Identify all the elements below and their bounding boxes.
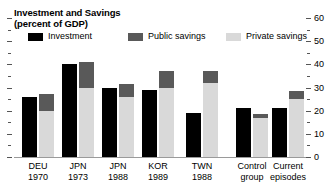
bar-segment-private-savings bbox=[203, 83, 218, 157]
axis-tick-major bbox=[7, 134, 12, 135]
x-axis-category-label: Currentepisodes bbox=[248, 161, 328, 183]
x-axis-category-line1: Current bbox=[248, 161, 328, 172]
x-axis-category-line2: episodes bbox=[248, 172, 328, 183]
axis-tick-major bbox=[7, 157, 12, 158]
axis-tick-major bbox=[7, 41, 12, 42]
axis-tick-minor bbox=[307, 76, 310, 77]
bar-savings-stack bbox=[253, 114, 268, 157]
bar-segment-public-savings bbox=[159, 71, 174, 87]
bar-group bbox=[272, 18, 306, 157]
axis-tick-major bbox=[306, 88, 311, 89]
y-axis-tick-label: 40 bbox=[314, 60, 324, 69]
axis-tick-major bbox=[306, 134, 311, 135]
x-axis-baseline bbox=[14, 157, 306, 158]
axis-tick-minor bbox=[8, 76, 11, 77]
bar-group bbox=[22, 18, 56, 157]
bar-group bbox=[62, 18, 96, 157]
chart-figure: Investment and Savings (percent of GDP) … bbox=[0, 0, 334, 193]
bar-savings-stack bbox=[159, 71, 174, 157]
bar-segment-private-savings bbox=[119, 97, 134, 157]
y-axis-tick-label: 20 bbox=[314, 107, 324, 116]
bar-savings-stack bbox=[203, 71, 218, 157]
bar-group bbox=[142, 18, 176, 157]
chart-title: Investment and Savings bbox=[14, 7, 121, 18]
axis-tick-major bbox=[7, 64, 12, 65]
bar-investment bbox=[22, 97, 37, 157]
y-axis-tick-label: 50 bbox=[314, 37, 324, 46]
axis-tick-major bbox=[7, 18, 12, 19]
bar-segment-public-savings bbox=[253, 114, 268, 117]
bar-investment bbox=[236, 108, 251, 157]
axis-tick-minor bbox=[307, 30, 310, 31]
axis-tick-minor bbox=[8, 30, 11, 31]
axis-tick-minor bbox=[8, 122, 11, 123]
bar-segment-private-savings bbox=[253, 118, 268, 157]
axis-tick-minor bbox=[8, 99, 11, 100]
bar-group bbox=[236, 18, 270, 157]
bar-segment-public-savings bbox=[79, 62, 94, 87]
bar-segment-private-savings bbox=[159, 88, 174, 158]
y-axis-tick-label: 60 bbox=[314, 14, 324, 23]
bar-savings-stack bbox=[289, 91, 304, 157]
axis-tick-minor bbox=[307, 99, 310, 100]
y-axis-tick-label: 10 bbox=[314, 130, 324, 139]
axis-tick-major bbox=[306, 41, 311, 42]
bar-investment bbox=[142, 90, 157, 157]
bar-segment-public-savings bbox=[203, 71, 218, 83]
bar-savings-stack bbox=[79, 62, 94, 157]
bar-investment bbox=[272, 108, 287, 157]
axis-tick-minor bbox=[8, 145, 11, 146]
bar-segment-public-savings bbox=[119, 84, 134, 97]
axis-tick-major bbox=[306, 18, 311, 19]
axis-tick-minor bbox=[307, 145, 310, 146]
y-axis-tick-label: 30 bbox=[314, 84, 324, 93]
axis-tick-minor bbox=[8, 53, 11, 54]
bar-segment-public-savings bbox=[39, 94, 54, 110]
axis-tick-minor bbox=[307, 122, 310, 123]
bar-segment-private-savings bbox=[79, 88, 94, 158]
axis-tick-major bbox=[306, 111, 311, 112]
bar-savings-stack bbox=[39, 94, 54, 157]
bar-segment-private-savings bbox=[39, 111, 54, 157]
axis-tick-major bbox=[306, 157, 311, 158]
axis-tick-minor bbox=[307, 53, 310, 54]
bar-investment bbox=[186, 113, 201, 157]
axis-tick-major bbox=[7, 88, 12, 89]
bar-segment-private-savings bbox=[289, 99, 304, 157]
bar-savings-stack bbox=[119, 84, 134, 157]
bar-group bbox=[102, 18, 136, 157]
plot-area bbox=[14, 18, 304, 157]
bar-investment bbox=[62, 64, 77, 157]
axis-tick-major bbox=[306, 64, 311, 65]
bar-segment-public-savings bbox=[289, 91, 304, 99]
bar-investment bbox=[102, 88, 117, 158]
axis-tick-major bbox=[7, 111, 12, 112]
bar-group bbox=[186, 18, 220, 157]
